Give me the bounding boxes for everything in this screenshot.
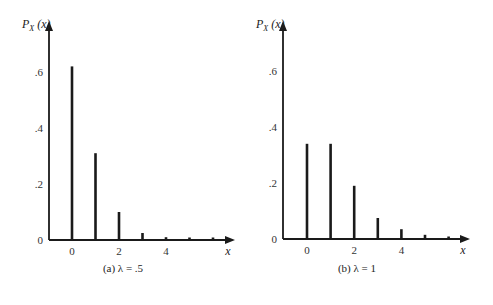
- y-tick-label: .4: [35, 122, 44, 134]
- chart-panel-b: PX (x)0.2.4.6024x(b) λ = 1: [255, 17, 470, 275]
- y-tick-label: .2: [269, 177, 277, 189]
- y-tick-label: 0: [38, 234, 44, 246]
- poisson-pmf-figure: PX (x)0.2.4.6024x(a) λ = .5PX (x)0.2.4.6…: [0, 0, 493, 305]
- x-tick-label: 2: [351, 244, 357, 256]
- chart-panel-a: PX (x)0.2.4.6024x(a) λ = .5: [21, 17, 235, 275]
- x-axis-label: x: [224, 244, 231, 258]
- x-axis-arrow-icon: [225, 236, 235, 244]
- y-tick-label: .6: [35, 66, 44, 78]
- x-tick-label: 4: [163, 245, 169, 257]
- y-axis-label: PX (x): [21, 17, 51, 33]
- chart-caption: (b) λ = 1: [338, 262, 376, 275]
- y-tick-label: .6: [269, 65, 278, 77]
- x-tick-label: 0: [304, 244, 310, 256]
- x-axis-label: x: [459, 243, 466, 257]
- y-tick-label: .2: [35, 178, 43, 190]
- y-tick-label: .4: [269, 121, 278, 133]
- x-tick-label: 4: [399, 244, 405, 256]
- chart-caption: (a) λ = .5: [103, 262, 144, 275]
- x-tick-label: 2: [116, 245, 122, 257]
- y-tick-label: 0: [272, 233, 278, 245]
- y-axis-label: PX (x): [255, 17, 285, 33]
- x-tick-label: 0: [69, 245, 75, 257]
- x-axis-arrow-icon: [460, 235, 470, 243]
